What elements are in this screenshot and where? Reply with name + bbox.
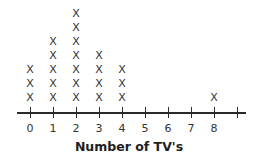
- axis-tick: [76, 107, 77, 118]
- x-marker: X: [70, 64, 82, 76]
- x-marker: X: [47, 92, 59, 104]
- x-axis-label: Number of TV's: [0, 139, 258, 154]
- dot-plot: Number of TV's 012345678XXXXXXXXXXXXXXXX…: [0, 0, 258, 163]
- tick-label: 4: [115, 122, 129, 135]
- x-marker: X: [70, 50, 82, 62]
- axis-tick: [145, 107, 146, 118]
- x-marker: X: [47, 50, 59, 62]
- axis-tick: [237, 107, 238, 118]
- x-marker: X: [24, 78, 36, 90]
- axis-tick: [122, 107, 123, 118]
- x-marker: X: [24, 64, 36, 76]
- tick-label: 2: [69, 122, 83, 135]
- x-marker: X: [116, 78, 128, 90]
- number-line-axis: [17, 112, 246, 114]
- axis-tick: [168, 107, 169, 118]
- tick-label: 1: [46, 122, 60, 135]
- x-marker: X: [116, 64, 128, 76]
- x-marker: X: [208, 92, 220, 104]
- x-marker: X: [24, 92, 36, 104]
- x-marker: X: [93, 92, 105, 104]
- axis-tick: [30, 107, 31, 118]
- axis-tick: [99, 107, 100, 118]
- x-marker: X: [93, 50, 105, 62]
- axis-tick: [53, 107, 54, 118]
- x-marker: X: [93, 78, 105, 90]
- axis-tick: [191, 107, 192, 118]
- axis-tick: [214, 107, 215, 118]
- tick-label: 7: [184, 122, 198, 135]
- x-marker: X: [47, 78, 59, 90]
- x-marker: X: [70, 92, 82, 104]
- x-marker: X: [70, 78, 82, 90]
- x-marker: X: [116, 92, 128, 104]
- x-marker: X: [47, 64, 59, 76]
- x-marker: X: [47, 36, 59, 48]
- tick-label: 3: [92, 122, 106, 135]
- x-marker: X: [70, 8, 82, 20]
- x-marker: X: [70, 36, 82, 48]
- tick-label: 5: [138, 122, 152, 135]
- tick-label: 6: [161, 122, 175, 135]
- x-marker: X: [70, 22, 82, 34]
- tick-label: 8: [207, 122, 221, 135]
- tick-label: 0: [23, 122, 37, 135]
- x-marker: X: [93, 64, 105, 76]
